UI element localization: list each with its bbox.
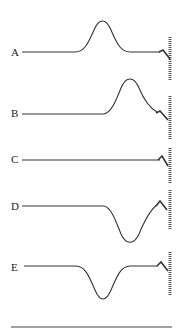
anchor-b [156, 111, 168, 120]
option-e: E [11, 252, 170, 299]
pulse-d [22, 205, 157, 242]
option-d: D [11, 190, 170, 242]
pulse-b [22, 79, 157, 114]
option-label-d: D [11, 200, 19, 212]
option-label-a: A [11, 46, 19, 58]
option-label-c: C [11, 153, 18, 165]
option-label-e: E [11, 261, 18, 273]
option-label-b: B [11, 107, 18, 119]
pulse-a [22, 21, 160, 52]
anchor-a [159, 50, 170, 59]
option-c: C [11, 148, 170, 183]
option-a: A [11, 21, 170, 80]
option-b: B [11, 79, 170, 140]
anchor-e [157, 262, 168, 271]
wave-diagram: A B C D E [0, 0, 179, 334]
anchor-c [158, 156, 168, 166]
anchor-d [156, 201, 167, 210]
pulse-e [24, 266, 158, 299]
